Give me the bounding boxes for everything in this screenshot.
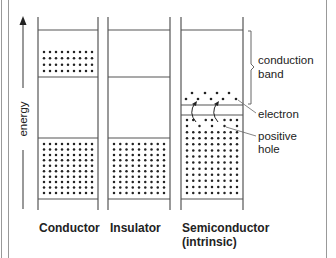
energy-label: energy xyxy=(17,101,29,136)
semiconductor-subcaption: (intrinsic) xyxy=(182,235,237,249)
semiconductor-valence-electrons xyxy=(186,119,239,195)
positive-hole-label-2: hole xyxy=(258,143,280,155)
arrow-up-icon xyxy=(20,16,27,25)
insulator-valence-electrons xyxy=(113,143,166,195)
insulator-caption: Insulator xyxy=(110,221,161,235)
conductor-caption: Conductor xyxy=(39,221,100,235)
electron-label: electron xyxy=(258,108,299,120)
conduction-band-bracket xyxy=(248,31,254,104)
frame xyxy=(2,0,327,258)
energy-axis: energy xyxy=(17,16,29,209)
semiconductor-excited-electrons xyxy=(185,92,238,101)
conduction-band-label-1: conduction xyxy=(258,54,314,66)
semiconductor-caption: Semiconductor xyxy=(182,221,270,235)
conductor-conduction-electrons xyxy=(43,51,94,73)
conductor-valence-electrons xyxy=(43,143,94,195)
curved-arrow-icon xyxy=(214,103,218,122)
conduction-band-label-2: band xyxy=(258,68,284,80)
positive-hole-label-1: positive xyxy=(258,130,297,142)
band-diagram: energy xyxy=(0,0,336,258)
electron-leader xyxy=(238,100,256,113)
